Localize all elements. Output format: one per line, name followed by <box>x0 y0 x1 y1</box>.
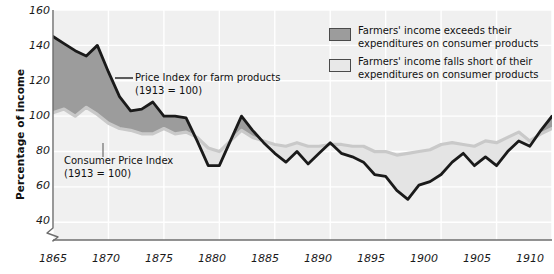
x-tick-label: 1880 <box>190 252 234 265</box>
y-tick-label: 160 <box>16 4 50 17</box>
legend-short-line2: expenditures on consumer products <box>358 69 539 82</box>
annotation-farm-line2: (1913 = 100) <box>135 85 280 98</box>
x-tick-label: 1895 <box>349 252 393 265</box>
y-tick-label: 100 <box>16 109 50 122</box>
x-tick-label: 1910 <box>508 252 552 265</box>
annotation-cpi-line2: (1913 = 100) <box>64 168 173 181</box>
legend-label-income-exceeds: Farmers' income exceeds their expenditur… <box>358 25 539 50</box>
annotation-consumer-price-index: Consumer Price Index (1913 = 100) <box>64 155 173 180</box>
annotation-farm-price-index: Price Index for farm products (1913 = 10… <box>135 72 280 97</box>
legend-exceeds-line2: expenditures on consumer products <box>358 38 539 51</box>
legend-swatch-income-falls-short <box>329 59 351 72</box>
y-tick-label: 140 <box>16 39 50 52</box>
y-tick-label: 40 <box>16 214 50 227</box>
legend-short-line1: Farmers' income falls short of their <box>358 56 539 69</box>
x-tick-label: 1890 <box>296 252 340 265</box>
legend-exceeds-line1: Farmers' income exceeds their <box>358 25 539 38</box>
x-tick-label: 1865 <box>31 252 75 265</box>
x-tick-label: 1900 <box>402 252 446 265</box>
x-tick-label: 1870 <box>84 252 128 265</box>
x-tick-label: 1885 <box>243 252 287 265</box>
annotation-cpi-line1: Consumer Price Index <box>64 155 173 168</box>
chart-container: Percentage of income 160 140 120 100 80 … <box>0 0 554 274</box>
x-tick-label: 1905 <box>455 252 499 265</box>
annotation-farm-line1: Price Index for farm products <box>135 72 280 85</box>
y-tick-label: 120 <box>16 74 50 87</box>
x-tick-label: 1875 <box>137 252 181 265</box>
y-tick-label: 60 <box>16 179 50 192</box>
y-tick-label: 80 <box>16 144 50 157</box>
legend-label-income-falls-short: Farmers' income falls short of their exp… <box>358 56 539 81</box>
legend-swatch-income-exceeds <box>329 28 351 41</box>
